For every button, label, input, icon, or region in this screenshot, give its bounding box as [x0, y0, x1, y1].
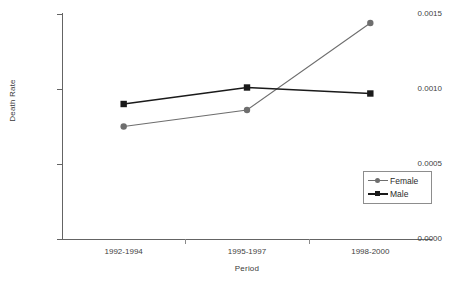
legend-item-male: Male — [368, 187, 408, 201]
legend-marker-circle-icon — [368, 175, 388, 187]
line-chart: Death Rate Period 0.00000.00050.00100.00… — [0, 0, 449, 287]
data-point-male — [244, 84, 250, 90]
data-point-female — [244, 107, 250, 113]
legend-label-female: Female — [388, 176, 418, 186]
data-point-male — [120, 101, 126, 107]
legend: Female Male — [363, 171, 432, 204]
legend-item-female: Female — [368, 174, 418, 188]
legend-label-male: Male — [388, 189, 408, 199]
plot-area — [0, 0, 449, 287]
data-point-female — [367, 20, 373, 26]
data-point-male — [367, 90, 373, 96]
data-point-female — [120, 123, 126, 129]
legend-marker-square-icon — [368, 188, 388, 200]
